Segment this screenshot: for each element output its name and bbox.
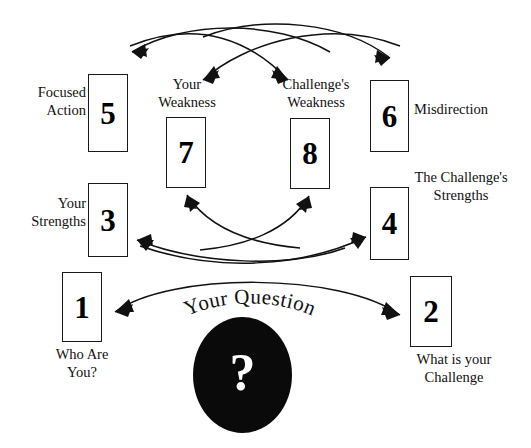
card-label-challenges-weakness: Challenge's Weakness [266, 76, 366, 111]
card-number-4: 4 [382, 208, 398, 239]
tarot-card-7[interactable]: 7 [166, 117, 206, 188]
card-number-2: 2 [423, 296, 439, 327]
card-number-6: 6 [382, 101, 398, 132]
card-number-3: 3 [100, 205, 116, 236]
card-number-8: 8 [302, 138, 318, 169]
card-label-your-weakness: Your Weakness [150, 76, 224, 111]
connector-arc-3-to-4 [140, 232, 366, 263]
card-number-7: 7 [178, 137, 194, 168]
connector-arc-to-6 [203, 24, 390, 66]
connector-arc-to-5 [132, 28, 330, 59]
question-mark-icon: ? [193, 317, 292, 433]
tarot-card-5[interactable]: 5 [88, 74, 128, 152]
question-orb[interactable]: ? [193, 317, 292, 433]
tarot-card-3[interactable]: 3 [88, 183, 128, 257]
center-caption-text: Your Question [180, 284, 320, 320]
card-label-the-challenges-strengths: The Challenge's Strengths [396, 169, 526, 204]
tarot-card-2[interactable]: 2 [410, 276, 452, 347]
diagram-canvas: 5 6 7 8 3 4 1 2 Focused Action Your Weak… [0, 0, 531, 448]
card-label-misdirection: Misdirection [414, 101, 529, 119]
card-number-1: 1 [74, 292, 90, 323]
card-label-focused-action: Focused Action [4, 84, 86, 119]
tarot-card-8[interactable]: 8 [290, 118, 330, 189]
connector-arc-to-8 [200, 196, 312, 250]
tarot-card-1[interactable]: 1 [62, 272, 102, 342]
card-label-your-strengths: Your Strengths [6, 195, 86, 230]
card-label-what-is-your-challenge: What is your Challenge [390, 351, 518, 386]
card-number-5: 5 [100, 98, 116, 129]
connector-arc-to-7 [184, 195, 300, 248]
card-label-who-are-you: Who Are You? [30, 346, 134, 381]
tarot-card-6[interactable]: 6 [370, 80, 409, 152]
connector-arc-4-to-3 [137, 234, 345, 261]
